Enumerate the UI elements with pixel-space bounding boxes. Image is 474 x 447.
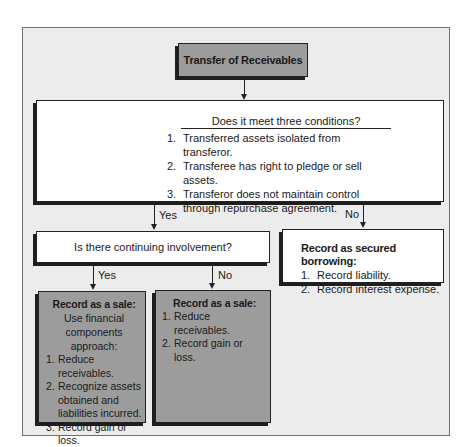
- sale-heading: Record as a sale:: [46, 298, 142, 311]
- list-item: 1.Reduce receivables.: [46, 353, 142, 380]
- arrow-down-icon: [90, 284, 96, 290]
- list-item: 1.Reduce receivables.: [162, 310, 267, 337]
- connector-line: [154, 205, 155, 225]
- connector-line: [363, 205, 364, 223]
- conditions-box: Does it meet three conditions? 1.Transfe…: [36, 100, 444, 202]
- conditions-list: 1.Transferred assets isolated from trans…: [167, 131, 377, 215]
- title-box: Transfer of Receivables: [178, 43, 308, 77]
- condition-item: 1.Transferred assets isolated from trans…: [167, 131, 377, 159]
- connector-line: [93, 265, 94, 285]
- sale-list: 1.Reduce receivables. 2.Recognize assets…: [46, 353, 142, 447]
- secured-borrowing-list: 1.Record liability. 2.Record interest ex…: [301, 268, 443, 296]
- list-item: 2.Record interest expense.: [301, 282, 443, 296]
- sale-heading: Record as a sale:: [162, 297, 267, 310]
- connector-line: [212, 265, 213, 284]
- list-item: 3.Record gain or loss.: [46, 421, 142, 447]
- involvement-yes-label: Yes: [98, 269, 116, 281]
- yes-label: Yes: [159, 209, 177, 221]
- no-label: No: [345, 208, 359, 220]
- secured-borrowing-heading: Record as secured borrowing:: [301, 242, 443, 268]
- involvement-no-label: No: [218, 269, 232, 281]
- condition-item: 2.Transferee has right to pledge or sell…: [167, 159, 377, 187]
- arrow-down-icon: [209, 283, 215, 289]
- arrow-down-icon: [151, 224, 157, 230]
- title-text: Transfer of Receivables: [184, 54, 303, 66]
- conditions-question: Does it meet three conditions?: [181, 115, 391, 129]
- sale-without-involvement-box: Record as a sale: 1.Reduce receivables. …: [155, 290, 271, 423]
- sale-with-involvement-box: Record as a sale: Use financial componen…: [38, 291, 146, 423]
- sale-list: 1.Reduce receivables. 2.Record gain or l…: [162, 310, 267, 364]
- connector-line: [244, 78, 245, 95]
- arrow-down-icon: [360, 222, 366, 228]
- sale-intro: Use financial components approach:: [46, 311, 142, 353]
- continuing-involvement-question: Is there continuing involvement?: [74, 241, 232, 253]
- list-item: 2.Record gain or loss.: [162, 337, 267, 364]
- list-item: 2.Recognize assets obtained and liabilit…: [46, 380, 142, 421]
- continuing-involvement-box: Is there continuing involvement?: [36, 231, 270, 263]
- list-item: 1.Record liability.: [301, 268, 443, 282]
- secured-borrowing-box: Record as secured borrowing: 1.Record li…: [282, 229, 444, 283]
